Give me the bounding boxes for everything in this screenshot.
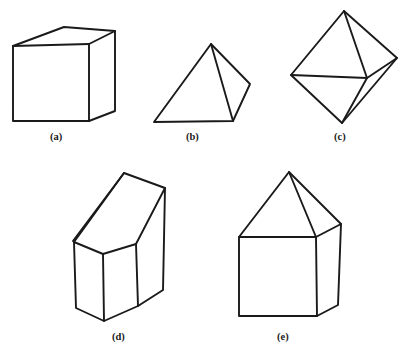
figure-container: (a) (b) (c) (d) (e): [0, 0, 404, 357]
shape-a-cube: [13, 27, 115, 121]
house-prism-outline: [239, 172, 341, 316]
caption-c: (c): [334, 131, 346, 142]
solids-diagram: [0, 0, 404, 357]
shape-c-octahedron: [291, 11, 397, 123]
shape-e-house-prism: [239, 172, 341, 316]
house-prism-vertical-edge: [316, 237, 317, 316]
oblique-prism-front-vertical-edge: [103, 254, 104, 321]
shape-d-oblique-prism: [73, 173, 165, 321]
octahedron-outline: [291, 11, 397, 123]
caption-b: (b): [186, 131, 199, 142]
cube-outline: [13, 27, 115, 121]
caption-e: (e): [277, 331, 289, 342]
caption-a: (a): [50, 131, 62, 142]
shape-b-square-pyramid: [154, 44, 250, 122]
caption-d: (d): [112, 331, 125, 342]
pyramid-outline: [154, 44, 250, 122]
